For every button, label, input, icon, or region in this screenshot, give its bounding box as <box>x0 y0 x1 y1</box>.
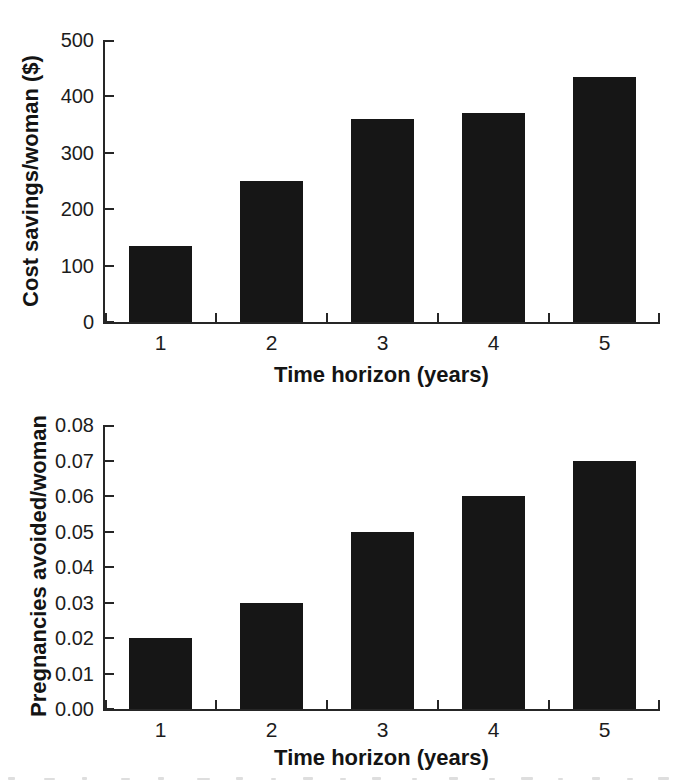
y-axis-tick <box>105 495 114 497</box>
y-axis-tick-label: 0.07 <box>18 451 94 471</box>
x-axis-tick <box>548 313 550 322</box>
y-axis-tick-label: 0.00 <box>18 699 94 719</box>
y-axis-tick-label: 0 <box>18 312 94 332</box>
caption-text-remnant <box>271 778 276 780</box>
caption-text-remnant <box>121 778 130 780</box>
y-axis-tick <box>105 460 114 462</box>
caption-text-remnant <box>489 778 495 780</box>
x-axis-tick <box>548 700 550 709</box>
x-axis-tick <box>437 700 439 709</box>
bar-year-5 <box>573 461 636 710</box>
y-axis-tick-label: 100 <box>18 256 94 276</box>
y-axis-tick-label: 0.02 <box>18 628 94 648</box>
x-axis-tick <box>215 313 217 322</box>
y-axis-tick <box>105 208 114 210</box>
caption-text-remnant <box>340 778 346 780</box>
x-axis-tick-label: 4 <box>472 719 516 741</box>
x-axis-tick-label: 3 <box>361 332 405 354</box>
caption-text-remnant <box>82 777 87 780</box>
y-axis-tick-label: 0.04 <box>18 557 94 577</box>
x-axis-tick <box>105 313 107 322</box>
caption-text-remnant <box>44 778 55 780</box>
caption-text-remnant <box>303 777 313 780</box>
x-axis-tick <box>105 700 107 709</box>
y-axis-tick-label: 0.08 <box>18 415 94 435</box>
pregnancies-plot-area <box>103 425 660 711</box>
bar-year-3 <box>351 532 414 710</box>
caption-text-remnant <box>449 777 458 780</box>
x-axis-tick-label: 1 <box>139 719 183 741</box>
y-axis-tick-label: 300 <box>18 143 94 163</box>
bar-year-5 <box>573 77 636 322</box>
y-axis-tick-label: 0.05 <box>18 522 94 542</box>
caption-text-remnant <box>521 777 533 780</box>
y-axis-tick-label: 400 <box>18 86 94 106</box>
y-axis-tick <box>105 425 114 427</box>
x-axis-tick <box>658 313 660 322</box>
y-axis-tick-label: 200 <box>18 199 94 219</box>
y-axis-tick-label: 0.06 <box>18 486 94 506</box>
bar-year-4 <box>462 496 525 709</box>
bar-year-3 <box>351 119 414 322</box>
y-axis-tick-label: 0.03 <box>18 593 94 613</box>
caption-text-remnant <box>658 777 669 780</box>
x-axis-tick <box>658 700 660 709</box>
x-axis-tick-label: 2 <box>250 332 294 354</box>
x-axis-tick <box>437 313 439 322</box>
x-axis-tick-label: 1 <box>139 332 183 354</box>
caption-text-remnant <box>372 777 381 780</box>
caption-text-remnant <box>558 778 563 780</box>
pregnancies-x-axis-title: Time horizon (years) <box>103 746 660 769</box>
caption-text-remnant <box>197 778 210 780</box>
cost-savings-x-axis-title: Time horizon (years) <box>103 363 660 386</box>
x-axis-tick <box>326 700 328 709</box>
y-axis-tick <box>105 602 114 604</box>
bar-year-1 <box>129 246 192 322</box>
cost-savings-plot-area <box>103 40 660 324</box>
caption-text-remnant <box>592 777 600 780</box>
bar-year-2 <box>240 603 303 710</box>
scanned-figure: Cost savings/woman ($) Time horizon (yea… <box>0 0 677 783</box>
caption-text-remnant <box>158 777 164 780</box>
bar-year-1 <box>129 638 192 709</box>
cost-savings-y-axis-title: Cost savings/woman ($) <box>18 21 44 341</box>
x-axis-tick <box>326 313 328 322</box>
y-axis-tick <box>105 95 114 97</box>
y-axis-tick-label: 500 <box>18 30 94 50</box>
x-axis-tick-label: 5 <box>583 332 627 354</box>
y-axis-tick-label: 0.01 <box>18 664 94 684</box>
y-axis-tick <box>105 673 114 675</box>
y-axis-tick <box>105 566 114 568</box>
x-axis-tick-label: 3 <box>361 719 405 741</box>
y-axis-tick <box>105 531 114 533</box>
caption-text-remnant <box>627 778 633 780</box>
caption-text-remnant <box>412 778 417 780</box>
caption-text-remnant <box>236 777 243 780</box>
x-axis-tick <box>215 700 217 709</box>
y-axis-tick <box>105 152 114 154</box>
bar-year-2 <box>240 181 303 322</box>
y-axis-tick <box>105 637 114 639</box>
bar-year-4 <box>462 113 525 322</box>
x-axis-tick-label: 5 <box>583 719 627 741</box>
caption-text-remnant <box>8 777 15 780</box>
x-axis-tick-label: 2 <box>250 719 294 741</box>
y-axis-tick <box>105 40 114 42</box>
x-axis-tick-label: 4 <box>472 332 516 354</box>
y-axis-tick <box>105 265 114 267</box>
